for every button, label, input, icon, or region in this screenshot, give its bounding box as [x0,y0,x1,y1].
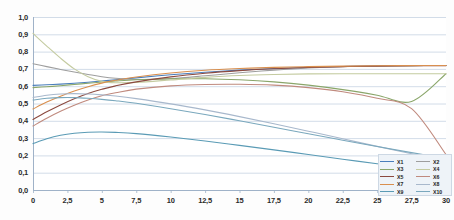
legend-label: X3 [397,166,403,172]
x-tick-label-2: 5 [89,196,115,205]
legend-swatch-icon [380,169,394,170]
line-chart: 0,00,10,20,30,40,50,60,70,80,91,0 02,557… [0,0,454,220]
legend-label: X1 [397,159,403,165]
legend-item-x4[interactable]: X4 [416,166,439,173]
x-tick-label-9: 22,5 [330,196,356,205]
legend-label: X8 [433,181,439,187]
legend-label: X9 [397,189,403,195]
y-tick-label-2: 0,2 [2,151,28,160]
legend-swatch-icon [416,169,430,170]
legend-item-x8[interactable]: X8 [416,181,439,188]
x-tick-label-6: 15 [227,196,253,205]
y-tick-label-10: 1,0 [2,13,28,22]
y-tick-label-6: 0,6 [2,82,28,91]
legend-label: X7 [397,181,403,187]
y-tick-label-1: 0,1 [2,168,28,177]
legend-label: X2 [433,159,439,165]
x-tick-label-0: 0 [20,196,46,205]
x-tick-label-7: 17,5 [261,196,287,205]
legend-swatch-icon [416,161,430,162]
legend[interactable]: X1X3X5X7X9 X2X4X6X8X10 [378,154,452,196]
x-tick-label-3: 7,5 [123,196,149,205]
legend-swatch-icon [416,184,430,185]
legend-swatch-icon [380,184,394,185]
y-tick-label-3: 0,3 [2,134,28,143]
x-tick-label-11: 27,5 [399,196,425,205]
legend-swatch-icon [416,176,430,177]
legend-item-x6[interactable]: X6 [416,173,439,180]
legend-item-x3[interactable]: X3 [380,166,403,173]
y-tick-label-4: 0,4 [2,116,28,125]
legend-column-right: X2X4X6X8X10 [415,155,451,197]
y-tick-label-0: 0,0 [2,186,28,195]
legend-swatch-icon [380,176,394,177]
x-tick-label-1: 2,5 [54,196,80,205]
legend-label: X6 [433,174,439,180]
legend-swatch-icon [380,161,394,162]
x-tick-label-12: 30 [433,196,454,205]
legend-label: X5 [397,174,403,180]
x-tick-label-4: 10 [158,196,184,205]
legend-item-x1[interactable]: X1 [380,158,403,165]
legend-item-x10[interactable]: X10 [416,188,442,195]
legend-column-left: X1X3X5X7X9 [379,155,415,197]
legend-swatch-icon [380,191,394,192]
x-tick-label-10: 25 [364,196,390,205]
y-tick-label-5: 0,5 [2,99,28,108]
legend-label: X4 [433,166,439,172]
y-tick-label-7: 0,7 [2,64,28,73]
legend-label: X10 [433,189,442,195]
x-tick-label-5: 12,5 [192,196,218,205]
legend-item-x9[interactable]: X9 [380,188,403,195]
y-tick-label-8: 0,8 [2,47,28,56]
y-tick-label-9: 0,9 [2,30,28,39]
legend-item-x5[interactable]: X5 [380,173,403,180]
x-tick-label-8: 20 [295,196,321,205]
legend-swatch-icon [416,191,430,192]
legend-item-x7[interactable]: X7 [380,181,403,188]
legend-item-x2[interactable]: X2 [416,158,439,165]
